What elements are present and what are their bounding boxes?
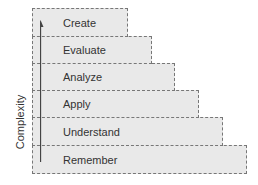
level-understand: Understand xyxy=(32,117,223,146)
level-label: Analyze xyxy=(63,71,102,83)
axis-label: Complexity xyxy=(14,95,26,149)
level-label: Remember xyxy=(63,154,117,166)
level-analyze: Analyze xyxy=(32,63,175,91)
level-create: Create xyxy=(32,8,128,37)
level-label: Evaluate xyxy=(63,44,106,56)
level-apply: Apply xyxy=(32,90,199,118)
level-label: Create xyxy=(63,17,96,29)
level-evaluate: Evaluate xyxy=(32,36,152,64)
arrow-up-icon xyxy=(40,20,46,162)
level-label: Apply xyxy=(63,98,91,110)
level-remember: Remember xyxy=(32,145,247,174)
level-label: Understand xyxy=(63,126,120,138)
